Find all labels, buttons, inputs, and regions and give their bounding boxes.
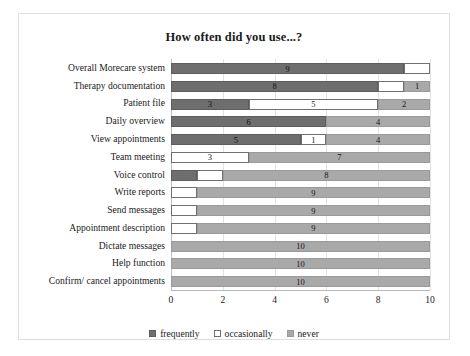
- bar-segment-never[interactable]: 2: [378, 99, 430, 110]
- bar-segment-frequently[interactable]: 6: [171, 116, 326, 127]
- bar-segment-never[interactable]: 9: [197, 205, 430, 216]
- chart-frame: How often did you use...? Overall Moreca…: [18, 13, 450, 340]
- bar-segment-frequently[interactable]: [171, 170, 197, 181]
- bar-segment-never[interactable]: 4: [326, 134, 430, 145]
- bar-value-label: 10: [172, 242, 429, 251]
- bar-segment-never[interactable]: 1: [404, 81, 430, 92]
- x-tick-label: 8: [376, 295, 381, 305]
- stacked-bar[interactable]: 9: [171, 187, 430, 198]
- bar-segment-never[interactable]: 10: [171, 258, 430, 269]
- chart-title: How often did you use...?: [19, 30, 449, 45]
- bar-segment-never[interactable]: 10: [171, 276, 430, 287]
- bar-row: 9: [171, 59, 430, 78]
- bar-row: 9: [171, 201, 430, 220]
- bar-segment-never[interactable]: 4: [326, 116, 430, 127]
- bar-segment-never[interactable]: 8: [223, 170, 430, 181]
- x-tick-label: 6: [324, 295, 329, 305]
- bar-segment-occasionally[interactable]: 3: [171, 152, 249, 163]
- y-axis-label: Help function: [29, 258, 165, 268]
- y-axis-label: Dictate messages: [29, 241, 165, 251]
- bar-segment-frequently[interactable]: 5: [171, 134, 301, 145]
- bar-segment-occasionally[interactable]: [171, 187, 197, 198]
- bar-segment-occasionally[interactable]: [404, 63, 430, 74]
- bar-value-label: 5: [172, 135, 300, 144]
- bar-segment-never[interactable]: 9: [197, 223, 430, 234]
- legend-item-frequently[interactable]: frequently: [149, 329, 199, 339]
- bar-segment-occasionally[interactable]: [378, 81, 404, 92]
- stacked-bar[interactable]: 9: [171, 223, 430, 234]
- y-axis-label: Appointment description: [29, 223, 165, 233]
- bar-rows: 98135264514378999101010: [171, 59, 430, 290]
- x-tick-label: 2: [220, 295, 225, 305]
- bar-value-label: 8: [172, 82, 377, 91]
- bar-row: 37: [171, 148, 430, 167]
- bar-value-label: 9: [198, 206, 429, 215]
- bar-segment-occasionally[interactable]: [171, 223, 197, 234]
- legend-swatch-occasionally: [214, 330, 221, 337]
- x-tick-label: 4: [272, 295, 277, 305]
- y-axis-label: Patient file: [29, 98, 165, 108]
- bar-value-label: 8: [224, 171, 429, 180]
- bar-segment-never[interactable]: 10: [171, 241, 430, 252]
- legend-label: occasionally: [225, 329, 273, 339]
- x-axis-line: [171, 290, 430, 291]
- bar-value-label: 9: [172, 64, 403, 73]
- bar-value-label: 7: [250, 153, 429, 162]
- bar-row: 64: [171, 112, 430, 131]
- stacked-bar[interactable]: 8: [171, 170, 430, 181]
- x-tick-label: 0: [169, 295, 174, 305]
- bar-segment-occasionally[interactable]: 5: [249, 99, 379, 110]
- stacked-bar[interactable]: 9: [171, 205, 430, 216]
- bar-value-label: 6: [172, 118, 325, 127]
- y-axis-label: View appointments: [29, 134, 165, 144]
- bar-segment-never[interactable]: 9: [197, 187, 430, 198]
- bar-segment-frequently[interactable]: 8: [171, 81, 378, 92]
- stacked-bar[interactable]: 514: [171, 134, 430, 145]
- bar-segment-occasionally[interactable]: [197, 170, 223, 181]
- stacked-bar[interactable]: 352: [171, 99, 430, 110]
- stacked-bar[interactable]: 10: [171, 258, 430, 269]
- bar-row: 9: [171, 183, 430, 202]
- stacked-bar[interactable]: 64: [171, 116, 430, 127]
- bar-value-label: 1: [302, 135, 326, 144]
- bar-row: 514: [171, 130, 430, 149]
- x-axis-tick-labels: 0246810: [171, 295, 430, 309]
- y-axis-category-labels: Overall Morecare systemTherapy documenta…: [29, 59, 168, 290]
- legend-label: frequently: [160, 329, 199, 339]
- bar-value-label: 10: [172, 277, 429, 286]
- chart-legend: frequentlyoccasionallynever: [19, 329, 449, 339]
- y-axis-label: Confirm/ cancel appointments: [29, 276, 165, 286]
- bar-row: 10: [171, 254, 430, 273]
- bar-row: 352: [171, 95, 430, 114]
- bar-value-label: 4: [327, 118, 429, 127]
- bar-segment-frequently[interactable]: 9: [171, 63, 404, 74]
- y-axis-label: Write reports: [29, 187, 165, 197]
- legend-item-occasionally[interactable]: occasionally: [214, 329, 273, 339]
- bar-segment-never[interactable]: 7: [249, 152, 430, 163]
- stacked-bar[interactable]: 10: [171, 241, 430, 252]
- bar-value-label: 2: [379, 100, 429, 109]
- plot-area: 98135264514378999101010: [171, 59, 430, 290]
- legend-swatch-never: [287, 330, 294, 337]
- y-axis-label: Overall Morecare system: [29, 63, 165, 73]
- bar-value-label: 9: [198, 224, 429, 233]
- bar-value-label: 1: [405, 82, 429, 91]
- bar-value-label: 3: [172, 100, 248, 109]
- gridline-10: [430, 59, 431, 290]
- stacked-bar[interactable]: 10: [171, 276, 430, 287]
- stacked-bar[interactable]: 81: [171, 81, 430, 92]
- bar-row: 9: [171, 219, 430, 238]
- y-axis-label: Therapy documentation: [29, 81, 165, 91]
- bar-row: 10: [171, 272, 430, 291]
- bar-segment-occasionally[interactable]: 1: [301, 134, 327, 145]
- bar-value-label: 3: [172, 153, 248, 162]
- stacked-bar[interactable]: 9: [171, 63, 430, 74]
- y-axis-label: Send messages: [29, 205, 165, 215]
- bar-segment-occasionally[interactable]: [171, 205, 197, 216]
- stacked-bar[interactable]: 37: [171, 152, 430, 163]
- bar-row: 81: [171, 77, 430, 96]
- legend-item-never[interactable]: never: [287, 329, 319, 339]
- y-axis-label: Voice control: [29, 170, 165, 180]
- bar-value-label: 9: [198, 189, 429, 198]
- bar-segment-frequently[interactable]: 3: [171, 99, 249, 110]
